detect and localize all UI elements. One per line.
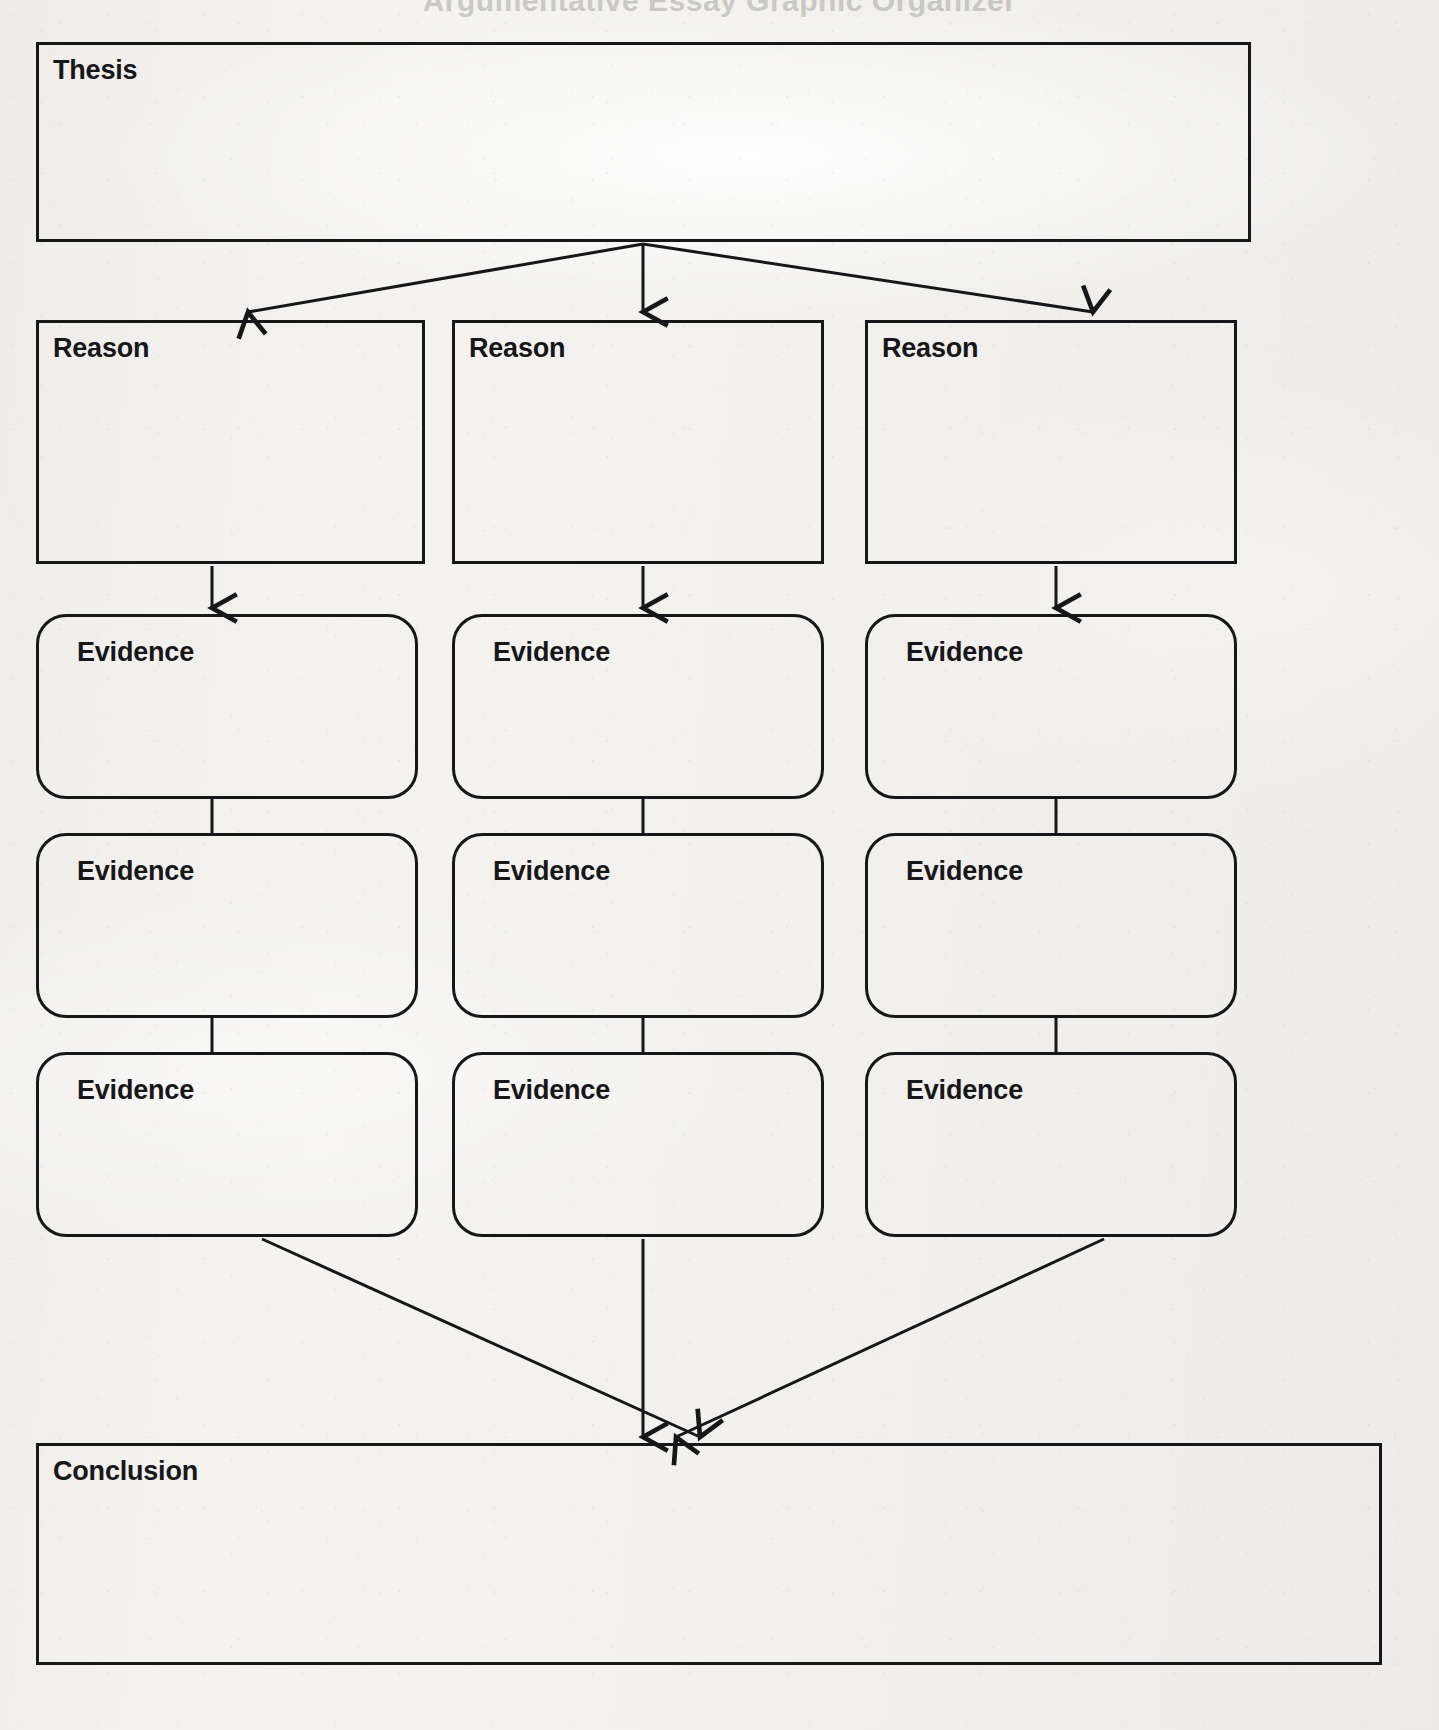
evidence-label-3-1: Evidence — [906, 637, 1023, 668]
evidence-box-3-3[interactable]: Evidence — [865, 1052, 1237, 1237]
reason-label-3: Reason — [882, 333, 978, 364]
evidence-box-2-3[interactable]: Evidence — [452, 1052, 824, 1237]
arrow-evidence-1-3-to-conclusion — [262, 1239, 700, 1437]
arrow-thesis-to-reason-1 — [248, 244, 643, 312]
evidence-box-1-2[interactable]: Evidence — [36, 833, 418, 1018]
evidence-box-2-1[interactable]: Evidence — [452, 614, 824, 799]
reason-box-2[interactable]: Reason — [452, 320, 824, 564]
evidence-label-3-2: Evidence — [906, 856, 1023, 887]
thesis-box[interactable]: Thesis — [36, 42, 1251, 242]
evidence-box-2-2[interactable]: Evidence — [452, 833, 824, 1018]
evidence-box-3-2[interactable]: Evidence — [865, 833, 1237, 1018]
conclusion-label: Conclusion — [53, 1456, 198, 1487]
reason-box-1[interactable]: Reason — [36, 320, 425, 564]
evidence-box-1-3[interactable]: Evidence — [36, 1052, 418, 1237]
evidence-label-1-1: Evidence — [77, 637, 194, 668]
reason-box-3[interactable]: Reason — [865, 320, 1237, 564]
thesis-to-reasons-connectors — [248, 244, 1093, 312]
evidence-box-3-1[interactable]: Evidence — [865, 614, 1237, 799]
arrow-thesis-to-reason-3 — [643, 244, 1093, 312]
evidence-label-2-2: Evidence — [493, 856, 610, 887]
evidence-label-1-3: Evidence — [77, 1075, 194, 1106]
arrow-evidence-3-3-to-conclusion — [676, 1239, 1104, 1437]
evidence-to-conclusion-connectors — [262, 1239, 1104, 1437]
reason-label-2: Reason — [469, 333, 565, 364]
reason-label-1: Reason — [53, 333, 149, 364]
argument-graphic-organizer: Thesis Reason Reason Reason Evidence Evi… — [0, 0, 1439, 1730]
evidence-label-2-3: Evidence — [493, 1075, 610, 1106]
evidence-label-2-1: Evidence — [493, 637, 610, 668]
evidence-label-3-3: Evidence — [906, 1075, 1023, 1106]
evidence-box-1-1[interactable]: Evidence — [36, 614, 418, 799]
conclusion-box[interactable]: Conclusion — [36, 1443, 1382, 1665]
evidence-label-1-2: Evidence — [77, 856, 194, 887]
thesis-label: Thesis — [53, 55, 137, 86]
reason-to-evidence-connectors — [212, 566, 1056, 608]
